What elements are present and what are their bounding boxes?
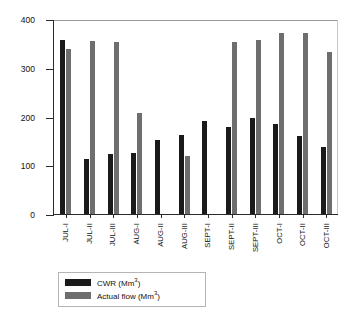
x-axis-tick <box>161 214 162 218</box>
bar <box>84 159 89 214</box>
y-axis-tick: 0 <box>46 215 54 216</box>
x-axis-label-cell: OCT-III <box>314 221 338 265</box>
x-axis-tick-label: SEPT-II <box>227 223 236 250</box>
bar <box>297 136 302 214</box>
bar <box>108 154 113 214</box>
x-axis-label-cell: AUG-I <box>124 221 148 265</box>
bar-group <box>220 20 244 214</box>
x-axis-tick <box>326 214 327 218</box>
y-axis-tick-label: 200 <box>21 113 35 123</box>
legend-label-cwr-text: CWR (Mm <box>97 279 134 288</box>
legend-swatch-cwr <box>65 279 91 286</box>
legend-item-actual-flow: Actual flow (Mm3) <box>65 290 199 301</box>
y-axis-tick: 100 <box>46 166 54 167</box>
x-axis-label-cell: AUG-II <box>148 221 172 265</box>
x-axis-label-cell: JUL-II <box>77 221 101 265</box>
bar-group <box>54 20 78 214</box>
x-axis-tick-label: AUG-I <box>132 223 141 245</box>
bar <box>131 153 136 214</box>
bar <box>60 40 65 214</box>
bar-chart-figure: Flow (Mm3) 0100200300400 JUL-IJUL-IIJUL-… <box>0 0 356 313</box>
bar <box>179 135 184 214</box>
x-axis-labels: JUL-IJUL-IIJUL-IIIAUG-IAUG-IIAUG-IIISEPT… <box>53 221 338 265</box>
x-axis-tick <box>90 214 91 218</box>
bar <box>185 156 190 215</box>
x-axis-tick-label: SEPT-I <box>203 223 212 248</box>
x-axis-label-cell: SEPT-I <box>196 221 220 265</box>
bar <box>279 33 284 214</box>
bar <box>303 33 308 214</box>
bar <box>114 42 119 214</box>
x-axis-label-cell: JUL-III <box>101 221 125 265</box>
x-axis-tick <box>137 214 138 218</box>
plot-area: 0100200300400 <box>53 20 338 215</box>
bar-group <box>101 20 125 214</box>
x-axis-tick-label: JUL-I <box>60 223 69 242</box>
bar-group <box>314 20 338 214</box>
bar-group <box>243 20 267 214</box>
x-axis-label-cell: AUG-III <box>172 221 196 265</box>
x-axis-label-cell: JUL-I <box>53 221 77 265</box>
x-axis-tick <box>303 214 304 218</box>
legend-label-actual-flow-close: ) <box>157 292 160 301</box>
bar <box>256 40 261 214</box>
y-axis-tick: 300 <box>46 69 54 70</box>
bar-group <box>196 20 220 214</box>
y-axis-tick-label: 0 <box>30 210 35 220</box>
x-axis-tick <box>232 214 233 218</box>
bar <box>90 41 95 214</box>
bar <box>137 113 142 214</box>
bar <box>202 121 207 214</box>
x-axis-tick-label: AUG-II <box>155 223 164 247</box>
x-axis-tick <box>255 214 256 218</box>
y-axis-tick-label: 300 <box>21 64 35 74</box>
bar-series-container <box>54 20 338 214</box>
legend-item-cwr: CWR (Mm3) <box>65 277 199 288</box>
bar <box>155 140 160 214</box>
chart-legend: CWR (Mm3) Actual flow (Mm3) <box>58 272 206 307</box>
legend-label-cwr: CWR (Mm3) <box>97 277 140 288</box>
bar <box>66 49 71 214</box>
y-axis-tick-label: 100 <box>21 161 35 171</box>
x-axis-tick <box>66 214 67 218</box>
y-axis-tick: 200 <box>46 118 54 119</box>
x-axis-label-cell: SEPT-III <box>243 221 267 265</box>
x-axis-tick <box>113 214 114 218</box>
legend-label-actual-flow: Actual flow (Mm3) <box>97 290 160 301</box>
y-axis-tick: 400 <box>46 20 54 21</box>
x-axis-tick-label: OCT-II <box>298 223 307 246</box>
bar <box>250 118 255 214</box>
x-axis-tick-label: JUL-II <box>84 223 93 244</box>
x-axis-tick <box>279 214 280 218</box>
x-axis-tick-label: OCT-III <box>322 223 331 248</box>
y-axis-tick-label: 400 <box>21 15 35 25</box>
legend-label-cwr-close: ) <box>138 279 141 288</box>
x-axis-tick-label: JUL-III <box>108 223 117 246</box>
x-axis-label-cell: SEPT-II <box>219 221 243 265</box>
bar <box>321 147 326 214</box>
bar <box>226 127 231 214</box>
bar-group <box>78 20 102 214</box>
bar-group <box>267 20 291 214</box>
x-axis-tick <box>184 214 185 218</box>
legend-swatch-actual-flow <box>65 292 91 299</box>
bar-group <box>291 20 315 214</box>
bar-group <box>125 20 149 214</box>
x-axis-tick-label: SEPT-III <box>250 223 259 252</box>
bar <box>232 42 237 214</box>
x-axis-label-cell: OCT-II <box>291 221 315 265</box>
bar-group <box>149 20 173 214</box>
x-axis-tick <box>208 214 209 218</box>
legend-label-actual-flow-text: Actual flow (Mm <box>97 292 154 301</box>
x-axis-tick-label: AUG-III <box>179 223 188 249</box>
x-axis-label-cell: OCT-I <box>267 221 291 265</box>
x-axis-tick-label: OCT-I <box>274 223 283 244</box>
bar-group <box>172 20 196 214</box>
bar <box>273 124 278 214</box>
bar <box>327 52 332 214</box>
